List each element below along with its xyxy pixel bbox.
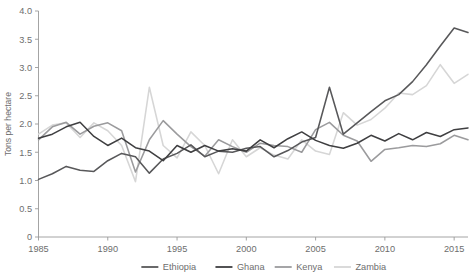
- x-tick-label: 1995: [167, 244, 187, 254]
- legend-label-ethiopia[interactable]: Ethiopia: [163, 262, 197, 272]
- x-tick-label: 2005: [305, 244, 325, 254]
- series-line-ethiopia: [39, 28, 469, 179]
- y-tick-label: 0.5: [19, 204, 32, 214]
- legend-label-zambia[interactable]: Zambia: [355, 262, 387, 272]
- x-tick-label: 2015: [444, 244, 464, 254]
- x-tick-label: 2000: [236, 244, 256, 254]
- x-axis-group: 1985199019952000200520102015: [28, 237, 468, 254]
- y-tick-label: 3.0: [19, 63, 32, 73]
- y-tick-label: 2.0: [19, 119, 32, 129]
- y-axis-title: Tons per hectare: [3, 92, 13, 156]
- x-tick-label: 2010: [375, 244, 395, 254]
- y-tick-label: 1.0: [19, 176, 32, 186]
- x-axis-ticks: 1985199019952000200520102015: [28, 237, 464, 254]
- y-tick-label: 2.5: [19, 91, 32, 101]
- y-axis-group: 00.51.01.52.02.53.03.54.0 Tons per hecta…: [3, 6, 39, 242]
- line-chart-figure: 00.51.01.52.02.53.03.54.0 Tons per hecta…: [0, 0, 473, 280]
- chart-legend: EthiopiaGhanaKenyaZambia: [141, 262, 387, 272]
- x-tick-label: 1990: [98, 244, 118, 254]
- y-tick-label: 0: [27, 232, 32, 242]
- x-tick-label: 1985: [28, 244, 48, 254]
- y-axis-ticks: 00.51.01.52.02.53.03.54.0: [19, 6, 38, 242]
- y-tick-label: 1.5: [19, 148, 32, 158]
- y-tick-label: 3.5: [19, 35, 32, 45]
- data-series-group: [39, 28, 469, 182]
- legend-label-ghana[interactable]: Ghana: [237, 262, 265, 272]
- legend-label-kenya[interactable]: Kenya: [296, 262, 323, 272]
- y-tick-label: 4.0: [19, 6, 32, 16]
- chart-canvas: 00.51.01.52.02.53.03.54.0 Tons per hecta…: [0, 0, 473, 280]
